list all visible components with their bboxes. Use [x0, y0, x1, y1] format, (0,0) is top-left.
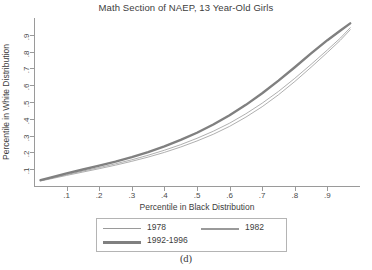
x-tick-label: .7 — [252, 191, 272, 200]
legend-swatch-1992-1996 — [103, 241, 141, 244]
x-tick-label: .1 — [57, 191, 77, 200]
series-lines — [34, 18, 360, 186]
x-tick-label: .5 — [187, 191, 207, 200]
legend-label-1992-1996: 1992-1996 — [147, 235, 188, 245]
x-tick-label: .2 — [89, 191, 109, 200]
plot-area: .1.2.3.4.5.6.7.8.9 .1.2.3.4.5.6.7.8.9 Pe… — [34, 18, 360, 186]
legend-label-1978: 1978 — [147, 222, 166, 232]
y-tick-label: .1 — [22, 168, 31, 188]
x-tick-label: .3 — [122, 191, 142, 200]
figure-caption: (d) — [0, 253, 372, 264]
y-tick-label: .5 — [22, 101, 31, 121]
x-tick-label: .9 — [317, 191, 337, 200]
series-line — [41, 28, 351, 181]
x-axis-title: Percentile in Black Distribution — [34, 202, 360, 212]
chart-figure: Math Section of NAEP, 13 Year-Old Girls … — [0, 0, 372, 270]
x-tick-label: .6 — [220, 191, 240, 200]
y-tick-label: .9 — [22, 33, 31, 53]
chart-title: Math Section of NAEP, 13 Year-Old Girls — [0, 2, 372, 13]
x-tick-label: .8 — [285, 191, 305, 200]
legend-label-1982: 1982 — [245, 222, 264, 232]
series-line — [41, 23, 351, 180]
legend-swatch-1982 — [201, 228, 239, 230]
x-tick-label: .4 — [154, 191, 174, 200]
y-tick-label: .6 — [22, 84, 31, 104]
y-axis-title: Percentile in White Distribution — [1, 44, 11, 160]
legend: 1978 1982 1992-1996 — [96, 218, 287, 252]
legend-swatch-1978 — [103, 228, 141, 229]
series-line — [41, 30, 351, 181]
